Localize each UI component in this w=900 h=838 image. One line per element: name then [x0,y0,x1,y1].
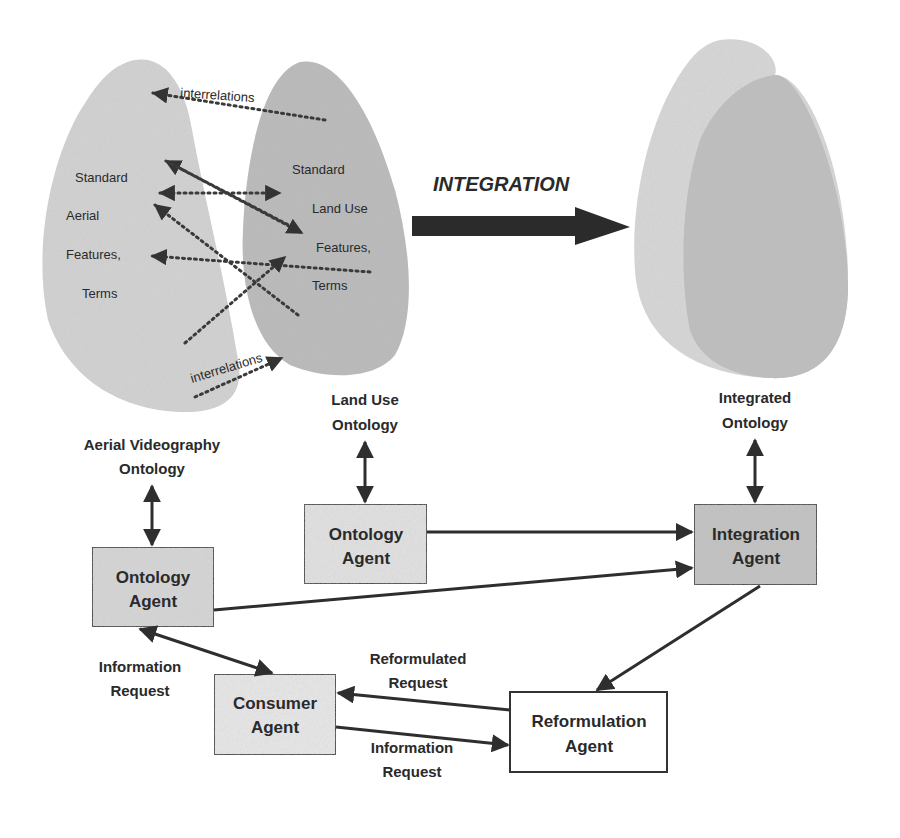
land-use-term-1: Standard [292,162,345,177]
left-ontology-agent-line1: Ontology [116,568,191,587]
middle-ontology-agent-line1: Ontology [329,525,404,544]
reformulation-agent-line1: Reformulation [531,712,646,731]
consumer-agent-line1: Consumer [233,694,317,713]
integrated-ontology-blob [634,39,848,378]
reformulation-agent-line2: Agent [565,737,614,756]
left-ontology-agent[interactable]: Ontology Agent [92,547,214,627]
aerial-term-3: Features, [66,247,121,262]
middle-ontology-agent-line2: Agent [342,549,391,568]
integration-title: INTEGRATION [433,173,570,195]
aerial-ontology-label-1: Aerial Videography [84,436,221,453]
left-ontology-agent-line2: Agent [129,592,178,611]
aerial-term-2: Aerial [66,208,99,223]
reformulated-request-line1: Reformulated [370,650,467,667]
reformulation-agent[interactable]: Reformulation Agent [510,692,667,772]
land-use-ontology-label-2: Ontology [332,416,398,433]
land-use-ontology-label-1: Land Use [331,391,399,408]
info-request-bottom-line2: Request [382,763,441,780]
aerial-ontology-label-2: Ontology [119,460,185,477]
ontology-integration-diagram: Standard Aerial Features, Terms Standard… [0,0,900,838]
integration-agent[interactable]: Integration Agent [694,504,817,585]
reformulated-request-line2: Request [388,674,447,691]
consumer-agent[interactable]: Consumer Agent [214,674,336,755]
integrated-ontology-label-2: Ontology [722,414,788,431]
info-request-left-line2: Request [110,682,169,699]
integration-arrow-icon [412,207,630,245]
land-use-term-4: Terms [312,278,348,293]
aerial-term-4: Terms [82,286,118,301]
land-use-ontology-blob [243,61,409,375]
integration-agent-line1: Integration [712,525,800,544]
aerial-term-1: Standard [75,170,128,185]
integrated-ontology-label-1: Integrated [719,389,792,406]
info-request-left-line1: Information [99,658,182,675]
land-use-term-3: Features, [316,240,371,255]
middle-ontology-agent[interactable]: Ontology Agent [304,504,427,584]
consumer-agent-line2: Agent [251,718,300,737]
aerial-ontology-blob [42,59,239,412]
land-use-term-2: Land Use [312,201,368,216]
interrelations-label-top: interrelations [180,85,256,105]
info-request-bottom-line1: Information [371,739,454,756]
integration-agent-line2: Agent [732,549,781,568]
